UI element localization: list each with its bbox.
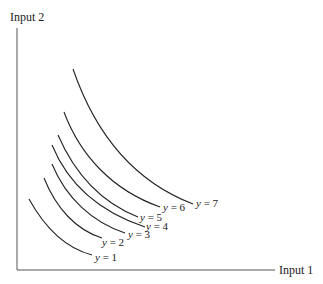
- isoquant-curve: [44, 178, 102, 238]
- curve-label-value: = 1: [100, 251, 117, 263]
- curve-label: y = 1: [94, 251, 117, 263]
- isoquant-curve: [64, 112, 160, 207]
- isoquant-curve: [52, 164, 125, 233]
- diagram-canvas: Input 2 Input 1 y = 1y = 2y = 3y = 4y = …: [0, 0, 323, 284]
- curve-label: y = 7: [195, 197, 219, 209]
- curve-label-value: = 2: [107, 236, 124, 248]
- isoquant-diagram: Input 2 Input 1 y = 1y = 2y = 3y = 4y = …: [0, 0, 323, 284]
- curve-label-value: = 5: [145, 211, 163, 223]
- curve-label: y = 6: [162, 201, 186, 213]
- isoquant-curves: y = 1y = 2y = 3y = 4y = 5y = 6y = 7: [29, 69, 219, 263]
- y-axis-label: Input 2: [10, 10, 44, 24]
- curve-label-value: = 6: [168, 201, 186, 213]
- curve-label: y = 5: [139, 211, 163, 223]
- curve-label-value: = 7: [201, 197, 219, 209]
- isoquant-curve: [73, 69, 193, 204]
- x-axis-label: Input 1: [279, 263, 313, 277]
- curve-label: y = 2: [101, 236, 124, 248]
